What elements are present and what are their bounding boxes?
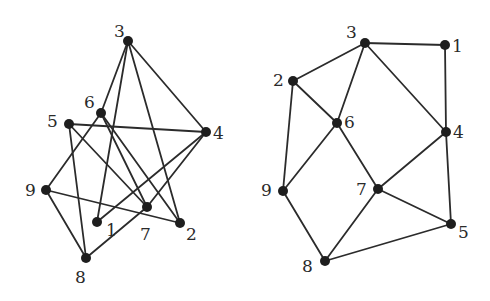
edge-3-4 xyxy=(365,43,446,132)
node-label-8: 8 xyxy=(302,256,313,276)
edge-6-9 xyxy=(283,123,337,191)
node-label-5: 5 xyxy=(47,111,58,131)
edge-1-4 xyxy=(445,45,446,132)
node-label-6: 6 xyxy=(84,92,95,112)
node-8 xyxy=(81,253,91,263)
node-label-1: 1 xyxy=(452,36,463,56)
node-label-6: 6 xyxy=(344,112,355,132)
right-graph-drawing: 123456789 xyxy=(261,22,469,276)
node-label-9: 9 xyxy=(25,180,36,200)
edge-3-4 xyxy=(128,41,206,132)
node-7 xyxy=(373,184,383,194)
edge-5-8 xyxy=(69,124,86,258)
node-5 xyxy=(64,119,74,129)
node-2 xyxy=(175,218,185,228)
node-4 xyxy=(441,127,451,137)
graph-diagram: 123456789 123456789 xyxy=(0,0,490,301)
edge-8-5 xyxy=(325,224,451,261)
node-3 xyxy=(360,38,370,48)
edge-2-6 xyxy=(293,81,337,123)
node-label-2: 2 xyxy=(273,70,284,90)
node-label-9: 9 xyxy=(261,180,272,200)
node-6 xyxy=(96,108,106,118)
node-5 xyxy=(446,219,456,229)
left-graph-drawing: 123456789 xyxy=(25,21,224,287)
edge-4-5 xyxy=(446,132,451,224)
node-label-3: 3 xyxy=(346,22,357,42)
edge-5-7 xyxy=(69,124,147,207)
edge-9-8 xyxy=(46,190,86,258)
edge-7-8 xyxy=(325,189,378,261)
node-label-7: 7 xyxy=(140,224,151,244)
node-label-7: 7 xyxy=(356,179,367,199)
node-1 xyxy=(440,40,450,50)
edge-9-8 xyxy=(283,191,325,261)
node-label-8: 8 xyxy=(75,267,86,287)
node-6 xyxy=(332,118,342,128)
node-1 xyxy=(92,217,102,227)
edge-2-9 xyxy=(283,81,293,191)
node-label-5: 5 xyxy=(458,222,469,242)
edge-7-5 xyxy=(378,189,451,224)
node-2 xyxy=(288,76,298,86)
node-8 xyxy=(320,256,330,266)
edge-4-7 xyxy=(378,132,446,189)
node-label-2: 2 xyxy=(186,224,197,244)
node-9 xyxy=(41,185,51,195)
node-4 xyxy=(201,127,211,137)
edge-4-7 xyxy=(147,132,206,207)
node-label-1: 1 xyxy=(106,220,117,240)
right-edges xyxy=(283,43,451,261)
node-label-4: 4 xyxy=(213,123,224,143)
edge-3-6 xyxy=(101,41,128,113)
edge-3-1 xyxy=(365,43,445,45)
node-7 xyxy=(142,202,152,212)
node-label-4: 4 xyxy=(453,122,464,142)
node-label-3: 3 xyxy=(114,21,125,41)
edge-3-1 xyxy=(97,41,128,222)
node-9 xyxy=(278,186,288,196)
